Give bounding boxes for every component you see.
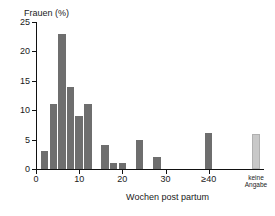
y-tick-label: 10 — [20, 106, 30, 115]
x-tick-label: 30 — [161, 175, 171, 184]
y-tick-label: 0 — [25, 165, 30, 174]
x-axis-title: Wochen post partum — [0, 192, 275, 202]
y-tick-label: 20 — [20, 47, 30, 56]
bar — [58, 34, 65, 169]
y-tick — [32, 51, 36, 52]
bar — [50, 104, 57, 169]
bar — [84, 104, 91, 169]
bar-keine-angabe — [252, 134, 259, 169]
x-axis-line — [36, 169, 264, 170]
y-tick — [32, 22, 36, 23]
bar — [205, 133, 212, 169]
x-tick-label: ≥40 — [201, 175, 216, 184]
y-axis-line — [36, 22, 37, 170]
plot-area: 0510152025 0102030≥40keineAngabe — [36, 22, 264, 170]
bar — [101, 145, 108, 169]
y-tick — [32, 81, 36, 82]
bar — [110, 163, 117, 169]
bar — [67, 87, 74, 169]
y-tick — [32, 110, 36, 111]
y-tick — [32, 140, 36, 141]
bar — [153, 157, 160, 169]
x-tick-label: 10 — [74, 175, 84, 184]
bar — [75, 116, 82, 169]
x-tick-label: 0 — [33, 175, 38, 184]
bar — [41, 151, 48, 169]
extra-category-label: keineAngabe — [245, 175, 267, 189]
bar-chart: Frauen (%) 0510152025 0102030≥40keineAng… — [0, 0, 275, 216]
y-axis-title: Frauen (%) — [24, 8, 69, 18]
y-tick-label: 25 — [20, 18, 30, 27]
extra-category-label-line2: Angabe — [245, 182, 267, 189]
bar — [136, 140, 143, 169]
y-tick-label: 15 — [20, 77, 30, 86]
y-tick-label: 5 — [25, 136, 30, 145]
x-tick-label: 20 — [117, 175, 127, 184]
bar — [119, 163, 126, 169]
